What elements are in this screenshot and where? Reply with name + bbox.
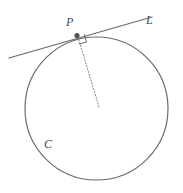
tangent-line-l-shape: [9, 17, 152, 58]
radius-dotted-segment-shape: [78, 37, 99, 107]
circle-c-shape: [25, 37, 168, 180]
label-line-l: L: [146, 14, 153, 26]
label-circle-c: C: [44, 138, 52, 150]
geometry-figure: P L C: [0, 0, 183, 193]
label-point-p: P: [66, 16, 73, 28]
geometry-canvas: [0, 0, 183, 193]
tangent-point-p-dot: [74, 33, 79, 38]
